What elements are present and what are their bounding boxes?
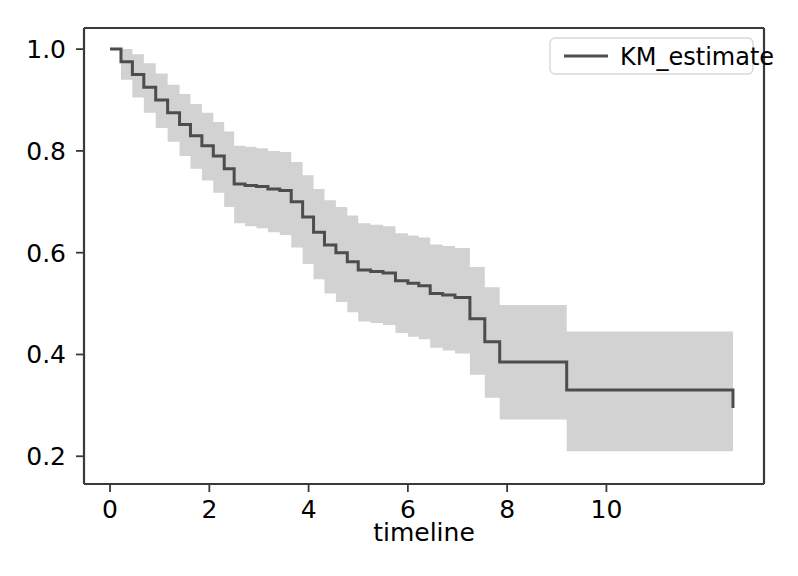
x-axis-tick-labels: 0246810: [102, 495, 622, 524]
y-tick-label-0.8: 0.8: [26, 137, 66, 166]
x-tick-label-10: 10: [591, 495, 623, 524]
y-axis-tick-labels: 0.20.40.60.81.0: [26, 35, 66, 471]
y-tick-label-0.6: 0.6: [26, 239, 66, 268]
y-axis-ticks: [76, 49, 84, 456]
y-tick-label-0.4: 0.4: [26, 340, 66, 369]
km-survival-plot: 0246810 0.20.40.60.81.0 timeline KM_esti…: [0, 0, 798, 576]
legend-label-km-estimate: KM_estimate: [620, 43, 774, 71]
x-tick-label-4: 4: [301, 495, 317, 524]
x-tick-label-0: 0: [102, 495, 118, 524]
y-tick-label-1.0: 1.0: [26, 35, 66, 64]
x-tick-label-2: 2: [201, 495, 217, 524]
x-tick-label-8: 8: [499, 495, 515, 524]
x-axis-title: timeline: [373, 518, 475, 547]
legend[interactable]: KM_estimate: [550, 38, 774, 74]
matplotlib-figure: 0246810 0.20.40.60.81.0 timeline KM_esti…: [0, 0, 798, 576]
y-tick-label-0.2: 0.2: [26, 442, 66, 471]
x-axis-ticks: [110, 484, 606, 492]
